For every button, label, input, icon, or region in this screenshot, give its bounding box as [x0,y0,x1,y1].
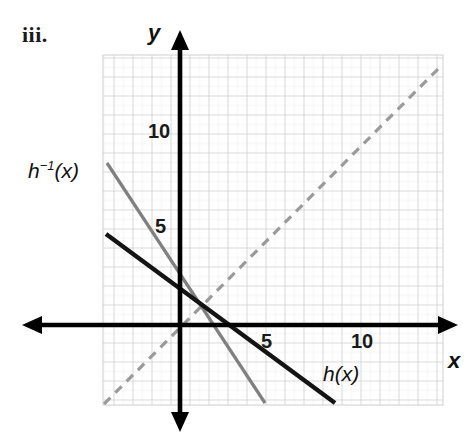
h-inverse-exponent: −1 [40,158,55,173]
y-tick-label-10: 10 [148,120,170,143]
y-tick-label-5: 5 [155,215,166,238]
x-tick-label-10: 10 [351,330,373,353]
item-number: iii. [22,22,48,48]
figure-page: iii. y x 10 5 5 10 h−1(x) h(x) [0,0,476,442]
h-inverse-curve-label: h−1(x) [28,158,79,183]
h-inverse-base: h [28,159,40,182]
x-axis-label: x [448,348,460,374]
h-inverse-argument: (x) [55,159,80,182]
graph-canvas [0,0,476,442]
y-axis-label: y [148,20,160,46]
x-tick-label-5: 5 [261,330,272,353]
h-curve-label: h(x) [323,362,359,386]
